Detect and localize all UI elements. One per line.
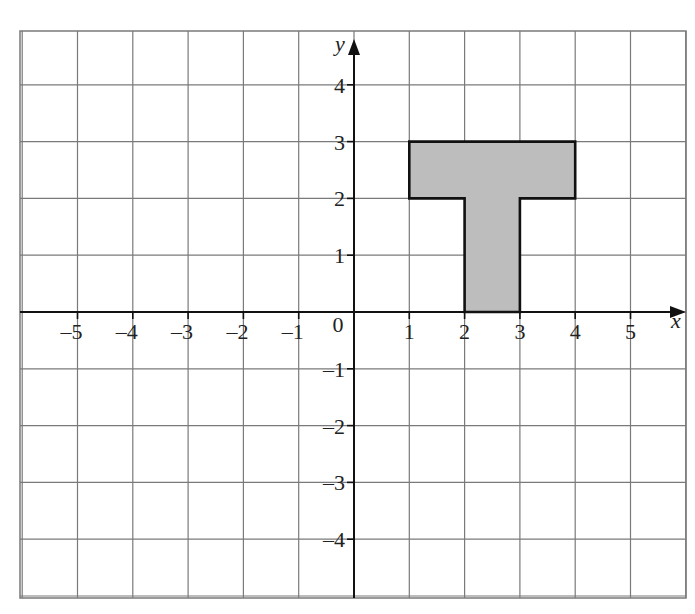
t-shape <box>409 142 575 312</box>
y-axis-arrow-icon <box>348 39 360 55</box>
y-tick-label: 3 <box>334 130 345 155</box>
x-axis-name: x <box>670 308 681 333</box>
x-tick-label: –2 <box>225 319 248 344</box>
x-tick-label: 5 <box>625 319 636 344</box>
x-tick-label: 2 <box>459 319 470 344</box>
coordinate-plane: –5–4–3–2–1123454321–1–2–3–40xy <box>0 0 695 614</box>
y-tick-label: 1 <box>334 243 345 268</box>
y-axis-name: y <box>333 31 345 56</box>
x-tick-label: 1 <box>404 319 415 344</box>
x-tick-label: 4 <box>570 319 581 344</box>
y-tick-label: 4 <box>334 73 345 98</box>
y-tick-label: –2 <box>322 414 345 439</box>
x-tick-label: –1 <box>281 319 304 344</box>
y-tick-label: –4 <box>322 527 345 552</box>
t-shape-polygon <box>409 142 575 312</box>
x-tick-label: –3 <box>170 319 193 344</box>
y-tick-label: –1 <box>322 357 345 382</box>
x-tick-label: –4 <box>115 319 138 344</box>
x-tick-label: –5 <box>60 319 83 344</box>
x-tick-label: 3 <box>514 319 525 344</box>
y-tick-label: 2 <box>334 186 345 211</box>
axis-labels: –5–4–3–2–1123454321–1–2–3–40xy <box>60 31 682 552</box>
origin-label: 0 <box>333 312 344 337</box>
y-tick-label: –3 <box>322 470 345 495</box>
coordinate-grid-figure: –5–4–3–2–1123454321–1–2–3–40xy <box>0 0 695 614</box>
